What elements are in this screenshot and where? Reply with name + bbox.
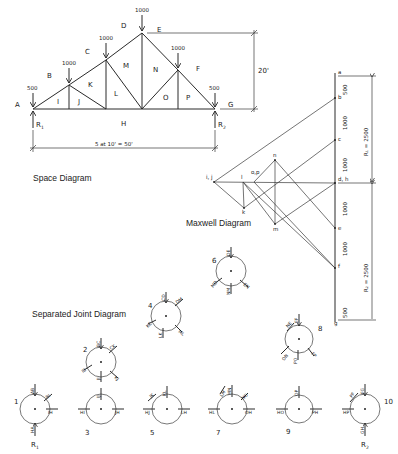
svg-text:CD: CD xyxy=(161,294,166,301)
separated-joint-caption: Separated Joint Diagram xyxy=(32,309,126,319)
svg-text:KL: KL xyxy=(162,390,167,396)
svg-text:9: 9 xyxy=(286,428,290,436)
svg-text:CK: CK xyxy=(109,343,118,351)
point-n: n xyxy=(273,152,277,158)
load-label-b: 1000 xyxy=(62,60,76,66)
point-c: c xyxy=(338,136,341,142)
svg-text:NM: NM xyxy=(226,288,231,295)
svg-text:4: 4 xyxy=(148,302,153,310)
svg-text:MN: MN xyxy=(227,388,232,395)
truss-analysis-figure: 20' 500 1000 1000 1000 1000 500 R1 R2 5 … xyxy=(0,0,398,454)
maxwell-diagram: R₁ = 2500 R₂ = 2500 500 1000 1000 1000 1… xyxy=(186,69,376,327)
svg-text:6: 6 xyxy=(212,257,217,265)
joint-1: 1 AB BI IH HA R1 xyxy=(14,384,58,450)
point-i-j: i, j xyxy=(206,174,213,181)
svg-text:PH: PH xyxy=(312,410,318,415)
point-e: e xyxy=(338,225,342,231)
reaction-r2-value: R₂ = 2500 xyxy=(363,263,369,292)
svg-text:DM: DM xyxy=(175,296,184,304)
point-k: k xyxy=(242,209,246,215)
separated-joints: 1 AB BI IH HA R1 2 BC CK KJ JI IB xyxy=(14,247,393,450)
segment-ef: 1000 xyxy=(342,242,348,256)
svg-text:BC: BC xyxy=(96,341,101,347)
segment-cd: 1000 xyxy=(342,158,348,172)
region-a: A xyxy=(15,101,20,109)
svg-text:FP: FP xyxy=(310,351,317,358)
segment-de: 1000 xyxy=(342,202,348,216)
region-e: E xyxy=(157,26,161,34)
svg-text:KJ: KJ xyxy=(113,375,119,382)
region-j: J xyxy=(77,98,80,106)
svg-text:HA: HA xyxy=(30,426,35,433)
region-p: P xyxy=(186,94,190,102)
svg-text:HL: HL xyxy=(209,410,215,415)
svg-text:5: 5 xyxy=(150,429,154,437)
load-label-apex: 1000 xyxy=(135,7,149,13)
region-b: B xyxy=(47,72,52,80)
region-f: F xyxy=(196,65,200,73)
svg-text:PO: PO xyxy=(293,357,298,364)
svg-text:JH: JH xyxy=(114,410,120,415)
space-diagram-caption: Space Diagram xyxy=(33,173,92,183)
point-g: g xyxy=(334,320,338,327)
point-m: m xyxy=(273,226,278,232)
region-c: C xyxy=(85,48,90,56)
region-i: I xyxy=(57,98,59,106)
segment-bc: 1000 xyxy=(342,116,348,130)
svg-text:8: 8 xyxy=(318,325,322,333)
svg-text:LM: LM xyxy=(219,389,227,397)
svg-text:3: 3 xyxy=(85,429,89,437)
space-diagram: 20' 500 1000 1000 1000 1000 500 R1 R2 5 … xyxy=(15,7,269,183)
svg-text:HO: HO xyxy=(277,410,284,415)
svg-text:GH: GH xyxy=(360,427,365,434)
svg-text:7: 7 xyxy=(216,429,220,437)
svg-text:1: 1 xyxy=(14,398,18,406)
joint-4: 4 CD DM ML LK KC xyxy=(145,292,186,338)
svg-text:OP: OP xyxy=(294,389,299,396)
joint-5: 5 JK KL HJ LH xyxy=(143,386,190,437)
svg-text:FG: FG xyxy=(360,387,365,394)
point-o-p: o,p xyxy=(251,169,260,176)
region-g: G xyxy=(228,101,233,109)
load-label-f: 1000 xyxy=(171,45,185,51)
svg-text:IJ: IJ xyxy=(96,395,101,398)
reaction-label-r2: R2 xyxy=(218,121,226,130)
svg-text:ON: ON xyxy=(281,353,289,362)
point-a: a xyxy=(338,69,341,75)
svg-text:IH: IH xyxy=(48,410,53,415)
svg-text:HI: HI xyxy=(80,410,85,415)
svg-text:HP: HP xyxy=(343,410,349,415)
joint-2: 2 BC CK KJ JI IB xyxy=(81,338,120,382)
region-l: L xyxy=(114,90,118,98)
svg-text:LH: LH xyxy=(181,410,187,415)
span-dimension-label: 5 at 10' = 50' xyxy=(95,141,133,147)
joint-3: 3 IJ HI JH xyxy=(78,388,124,437)
joint-6: 6 DE EN NM MD xyxy=(210,247,250,295)
joint-8: 8 EF FP PO ON NE xyxy=(281,314,323,364)
svg-text:AB: AB xyxy=(30,388,35,394)
svg-text:OH: OH xyxy=(245,410,252,415)
svg-text:JI: JI xyxy=(96,377,101,381)
svg-text:R1: R1 xyxy=(31,441,39,450)
point-b: b xyxy=(338,94,342,100)
load-label-c: 1000 xyxy=(99,35,113,41)
joint-10: 10 FG PF HP GH R2 xyxy=(342,384,393,450)
joint-7: 7 LM MN NO HL OH xyxy=(208,385,255,437)
svg-text:10: 10 xyxy=(384,398,393,406)
height-dimension-label: 20' xyxy=(258,67,269,75)
region-o: O xyxy=(163,94,169,102)
svg-text:ML: ML xyxy=(177,329,185,337)
svg-text:LK: LK xyxy=(158,331,163,338)
region-n: N xyxy=(153,66,158,74)
point-l: l xyxy=(241,174,243,180)
reaction-label-r1: R1 xyxy=(36,121,44,130)
svg-text:HJ: HJ xyxy=(145,410,150,415)
region-m: M xyxy=(123,62,129,70)
load-label-left-end: 500 xyxy=(27,85,38,91)
svg-text:R2: R2 xyxy=(361,441,369,450)
svg-text:2: 2 xyxy=(83,346,87,354)
segment-fg: 500 xyxy=(342,307,348,318)
reaction-r1-value: R₁ = 2500 xyxy=(363,127,369,156)
region-k: K xyxy=(88,81,93,89)
region-h: H xyxy=(121,120,126,128)
